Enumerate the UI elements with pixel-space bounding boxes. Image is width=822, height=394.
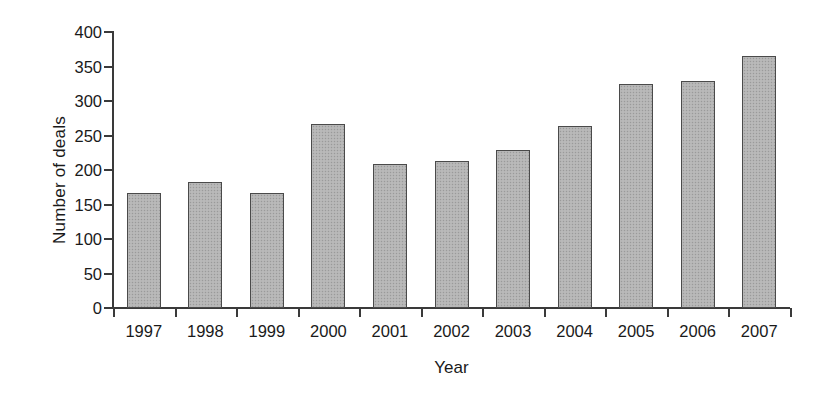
x-axis-tick xyxy=(236,308,238,317)
x-axis-tick xyxy=(790,308,792,317)
bar-1999 xyxy=(250,193,284,308)
x-axis-tick xyxy=(298,308,300,317)
x-axis-tick-label: 2005 xyxy=(618,322,655,341)
bar-chart-figure: Number of deals 050100150200250300350400… xyxy=(0,0,822,394)
x-axis-tick xyxy=(667,308,669,317)
x-axis-tick-label: 2007 xyxy=(741,322,778,341)
bar-1997 xyxy=(127,193,161,308)
bar-2005 xyxy=(619,84,653,308)
y-axis-tick xyxy=(104,66,113,68)
x-axis-tick-label: 1998 xyxy=(187,322,224,341)
y-axis-tick-label: 150 xyxy=(58,195,102,214)
bar-2004 xyxy=(558,126,592,308)
bar-1998 xyxy=(188,182,222,308)
x-axis-tick-label: 2006 xyxy=(679,322,716,341)
y-axis-tick xyxy=(104,307,113,309)
y-axis-tick-label: 0 xyxy=(58,299,102,318)
y-axis-tick xyxy=(104,238,113,240)
y-axis-tick-label: 100 xyxy=(58,230,102,249)
x-axis-tick-label: 2004 xyxy=(556,322,593,341)
x-axis-tick-label: 2000 xyxy=(310,322,347,341)
y-axis-tick-label: 50 xyxy=(58,264,102,283)
y-axis-tick xyxy=(104,273,113,275)
y-axis-tick-labels: 050100150200250300350400 xyxy=(50,0,102,394)
x-axis-tick-label: 2002 xyxy=(433,322,470,341)
x-axis-tick xyxy=(544,308,546,317)
y-axis-tick-label: 400 xyxy=(58,23,102,42)
bar-2003 xyxy=(496,150,530,308)
x-axis-tick xyxy=(421,308,423,317)
x-axis-tick-label: 1999 xyxy=(249,322,286,341)
x-axis-tick xyxy=(728,308,730,317)
y-axis-tick-label: 200 xyxy=(58,161,102,180)
x-axis-tick-label: 1997 xyxy=(125,322,162,341)
x-axis-tick xyxy=(359,308,361,317)
y-axis-tick xyxy=(104,31,113,33)
x-axis-tick-label: 2001 xyxy=(372,322,409,341)
x-axis-tick xyxy=(482,308,484,317)
y-axis-tick-label: 300 xyxy=(58,92,102,111)
y-axis-tick-label: 350 xyxy=(58,57,102,76)
bar-2002 xyxy=(435,161,469,308)
y-axis-tick xyxy=(104,169,113,171)
x-axis-tick xyxy=(175,308,177,317)
bar-2000 xyxy=(311,124,345,308)
bar-2001 xyxy=(373,164,407,308)
x-axis-tick xyxy=(605,308,607,317)
x-axis-title: Year xyxy=(113,358,790,378)
y-axis-tick xyxy=(104,100,113,102)
y-axis-tick xyxy=(104,135,113,137)
bar-2007 xyxy=(742,56,776,308)
y-axis-tick xyxy=(104,204,113,206)
y-axis-tick-label: 250 xyxy=(58,126,102,145)
plot-area xyxy=(113,32,790,308)
bar-2006 xyxy=(681,81,715,308)
x-axis-tick-label: 2003 xyxy=(495,322,532,341)
x-axis-tick xyxy=(113,308,115,317)
